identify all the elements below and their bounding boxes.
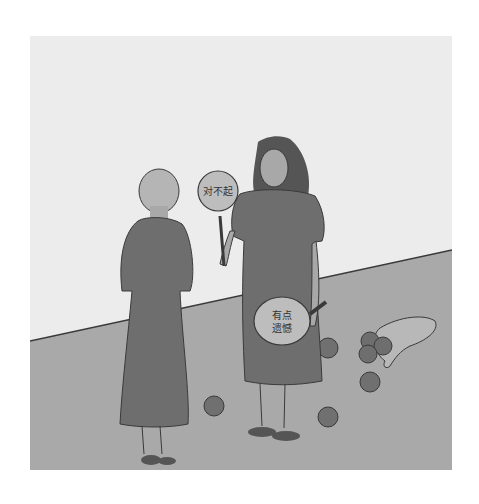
- apple: [318, 407, 338, 427]
- apple: [204, 396, 224, 416]
- apple: [360, 372, 380, 392]
- illustration-frame: 对不起 有点 遗憾: [30, 36, 452, 470]
- scene-illustration: 对不起 有点 遗憾: [30, 36, 452, 470]
- lowered-sign-line1: 有点: [272, 309, 292, 321]
- raised-sign-text: 对不起: [203, 185, 233, 197]
- lowered-sign-line2: 遗憾: [272, 322, 292, 334]
